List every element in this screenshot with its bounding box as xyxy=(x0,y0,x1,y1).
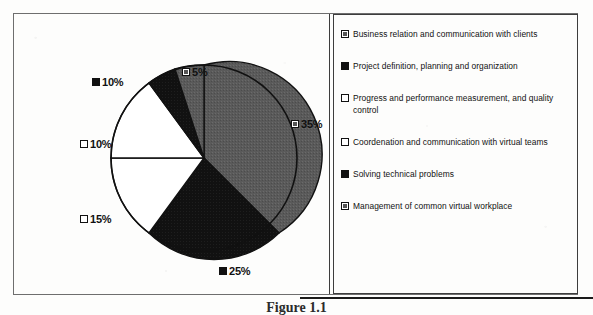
data-label-35-percent: 35% xyxy=(291,118,322,130)
data-label-5-percent: 5% xyxy=(182,66,208,78)
scan-bottom-edge xyxy=(300,297,593,299)
legend-item-label: Project definition, planning and organiz… xyxy=(353,60,518,72)
legend-swatch-black-icon xyxy=(341,170,349,178)
data-label-value: 5% xyxy=(192,66,208,78)
data-label-swatch-gray-icon xyxy=(291,120,299,128)
data-label-value: 25% xyxy=(229,265,250,277)
figure-caption: Figure 1.1 xyxy=(0,300,593,315)
legend-item-label: Progress and performance measurement, an… xyxy=(353,92,571,116)
legend-item-management-virtual-workplace[interactable]: Management of common virtual workplace xyxy=(341,200,571,212)
legend-swatch-gray-icon xyxy=(341,30,349,38)
legend-swatch-white-icon xyxy=(341,138,349,146)
legend-item-business-relation[interactable]: Business relation and communication with… xyxy=(341,28,571,40)
data-label-15-percent: 15% xyxy=(80,213,111,225)
legend-item-coordenation[interactable]: Coordenation and communication with virt… xyxy=(341,136,571,148)
legend-swatch-white-icon xyxy=(341,94,349,102)
data-label-10-percent-technical: 10% xyxy=(92,76,123,88)
pie-chart-plot-area xyxy=(14,14,330,294)
legend-item-project-definition[interactable]: Project definition, planning and organiz… xyxy=(341,60,571,72)
legend-panel: Business relation and communication with… xyxy=(333,14,578,294)
data-label-swatch-white-icon xyxy=(80,215,88,223)
data-label-25-percent: 25% xyxy=(219,265,250,277)
data-label-swatch-black-icon xyxy=(92,78,100,86)
data-label-value: 10% xyxy=(90,138,111,150)
data-label-value: 10% xyxy=(102,76,123,88)
legend-item-solving-technical-problems[interactable]: Solving technical problems xyxy=(341,168,571,180)
legend-item-label: Business relation and communication with… xyxy=(353,28,537,40)
pie-chart-panel: 5% 35% 25% 15% 10% 10% xyxy=(14,14,330,294)
legend-item-label: Solving technical problems xyxy=(353,168,454,180)
data-label-10-percent-coordenation: 10% xyxy=(80,138,111,150)
legend-swatch-gray-icon xyxy=(341,202,349,210)
legend-item-label: Coordenation and communication with virt… xyxy=(353,136,548,148)
data-label-swatch-white-icon xyxy=(80,140,88,148)
legend-swatch-black-icon xyxy=(341,62,349,70)
data-label-value: 35% xyxy=(301,118,322,130)
data-label-swatch-gray-icon xyxy=(182,68,190,76)
data-label-value: 15% xyxy=(90,213,111,225)
legend-list: Business relation and communication with… xyxy=(341,28,571,212)
data-label-swatch-black-icon xyxy=(219,267,227,275)
legend-item-label: Management of common virtual workplace xyxy=(353,200,512,212)
pie-chart-svg xyxy=(14,14,330,294)
legend-item-progress-performance[interactable]: Progress and performance measurement, an… xyxy=(341,92,571,116)
